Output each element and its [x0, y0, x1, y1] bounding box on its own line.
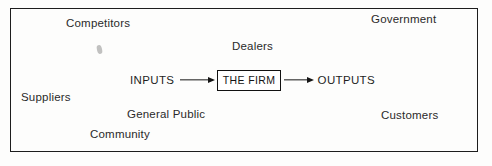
arrow-right-icon-outputs: [284, 74, 314, 86]
the-firm-label: THE FIRM: [223, 74, 276, 86]
arrow-right-icon-inputs: [180, 74, 215, 86]
the-firm-box: THE FIRM: [217, 70, 280, 91]
environment-label-community: Community: [90, 128, 150, 140]
environment-label-dealers: Dealers: [232, 40, 273, 52]
outputs-label: OUTPUTS: [318, 74, 375, 86]
diagram-canvas: Competitors Government Dealers Suppliers…: [0, 0, 492, 166]
environment-label-government: Government: [371, 13, 436, 25]
environment-label-competitors: Competitors: [66, 17, 130, 29]
arrow-head: [208, 77, 215, 83]
environment-label-general-public: General Public: [127, 108, 205, 120]
environment-label-suppliers: Suppliers: [21, 91, 71, 103]
arrow-head: [307, 77, 314, 83]
environment-label-customers: Customers: [381, 109, 438, 121]
inputs-label: INPUTS: [130, 74, 174, 86]
input-output-flow: INPUTS THE FIRM OUTPUTS: [130, 68, 375, 92]
